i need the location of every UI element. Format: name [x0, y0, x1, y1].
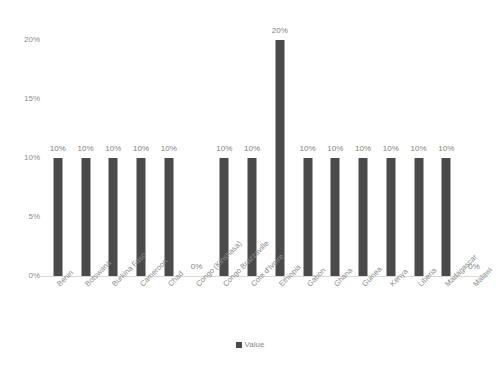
- category-anchor: Gabon: [305, 0, 306, 372]
- x-axis-tick-label: Malawi: [471, 265, 494, 288]
- x-axis-tick-label: Botswana: [83, 258, 113, 288]
- category-anchor: Madagascar: [443, 0, 444, 372]
- x-axis-tick-label: Chad: [166, 269, 185, 288]
- category-anchor: Chad: [166, 0, 167, 372]
- category-anchor: Congo (Kinshasa): [194, 0, 195, 372]
- legend-swatch-icon: [236, 342, 242, 348]
- x-axis-tick-label: Congo (Kinshasa): [194, 239, 243, 288]
- x-axis-tick-label: Guinea: [360, 265, 384, 289]
- x-axis-categories: BeninBotswanaBurkina FasoCameroonChadCon…: [44, 0, 488, 372]
- bar-chart: 0%5%10%15%20% 10%10%10%10%10%0%10%10%20%…: [0, 0, 500, 372]
- y-axis-tick-label: 15%: [6, 95, 40, 103]
- category-anchor: Burkina Faso: [110, 0, 111, 372]
- y-axis-tick-label: 0%: [6, 272, 40, 280]
- x-axis-tick-label: Gabon: [305, 266, 327, 288]
- category-anchor: Cote d'Ivoire: [249, 0, 250, 372]
- category-anchor: Ghana: [332, 0, 333, 372]
- category-anchor: Malawi: [471, 0, 472, 372]
- category-anchor: Liberia: [416, 0, 417, 372]
- x-axis-tick-label: Benin: [55, 268, 75, 288]
- category-anchor: Cameroon: [138, 0, 139, 372]
- y-axis: 0%5%10%15%20%: [0, 0, 40, 372]
- category-anchor: Botswana: [83, 0, 84, 372]
- y-axis-tick-label: 10%: [6, 154, 40, 162]
- x-axis-tick-label: Ghana: [332, 266, 354, 288]
- y-axis-tick-label: 5%: [6, 213, 40, 221]
- category-anchor: Benin: [55, 0, 56, 372]
- x-axis-tick-label: Ethiopia: [277, 263, 303, 289]
- category-anchor: Guinea: [360, 0, 361, 372]
- legend-item-value: Value: [236, 340, 265, 350]
- chart-legend: Value: [0, 340, 500, 351]
- legend-item-label: Value: [245, 340, 265, 350]
- x-axis-tick-label: Kenya: [388, 267, 410, 289]
- category-anchor: Congo Brazzaville: [221, 0, 222, 372]
- x-axis-tick-label: Liberia: [416, 266, 438, 288]
- category-anchor: Kenya: [388, 0, 389, 372]
- y-axis-tick-label: 20%: [6, 36, 40, 44]
- category-anchor: Ethiopia: [277, 0, 278, 372]
